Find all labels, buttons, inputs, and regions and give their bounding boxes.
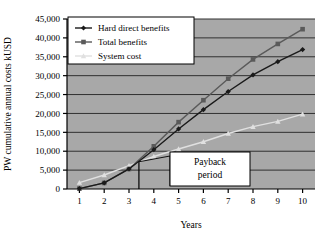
y-tick-label: 5,000: [40, 165, 61, 175]
y-tick-label: 40,000: [35, 33, 60, 43]
y-tick-label: 20,000: [35, 109, 60, 119]
chart-legend: Hard direct benefitsTotal benefitsSystem…: [68, 17, 194, 64]
y-tick-label: 0: [56, 184, 61, 194]
chart-figure: 05,00010,00015,00020,00025,00030,00035,0…: [0, 0, 334, 235]
x-tick-label: 1: [77, 196, 82, 206]
x-tick-label: 2: [102, 196, 107, 206]
x-tick-label: 9: [276, 196, 281, 206]
data-point-marker: [176, 120, 181, 125]
y-tick-label: 10,000: [35, 146, 60, 156]
x-tick-label: 7: [226, 196, 231, 206]
x-tick-label: 4: [152, 196, 157, 206]
x-tick-label: 8: [251, 196, 256, 206]
x-axis-title: Years: [180, 220, 202, 230]
data-point-marker: [276, 42, 281, 47]
legend-label[interactable]: System cost: [98, 51, 142, 61]
x-tick-label: 5: [176, 196, 181, 206]
line-chart: 05,00010,00015,00020,00025,00030,00035,0…: [0, 0, 334, 235]
data-point-marker: [201, 98, 206, 103]
legend-label[interactable]: Total benefits: [98, 37, 148, 47]
y-tick-label: 30,000: [35, 71, 60, 81]
payback-label-line1: Payback: [194, 157, 226, 167]
y-tick-label: 35,000: [35, 52, 60, 62]
y-axis-title: PW cumulative annual costs kUSD: [3, 37, 13, 171]
x-tick-label: 3: [127, 196, 132, 206]
x-tick-label: 10: [298, 196, 308, 206]
data-point-marker: [226, 76, 231, 81]
y-tick-label: 25,000: [35, 90, 60, 100]
data-point-marker: [300, 27, 305, 32]
data-point-marker: [81, 40, 86, 45]
legend-label[interactable]: Hard direct benefits: [98, 23, 170, 33]
payback-label-line2: period: [198, 170, 223, 180]
x-tick-label: 6: [201, 196, 206, 206]
data-point-marker: [251, 57, 256, 62]
y-tick-label: 45,000: [35, 14, 60, 24]
y-tick-label: 15,000: [35, 128, 60, 138]
